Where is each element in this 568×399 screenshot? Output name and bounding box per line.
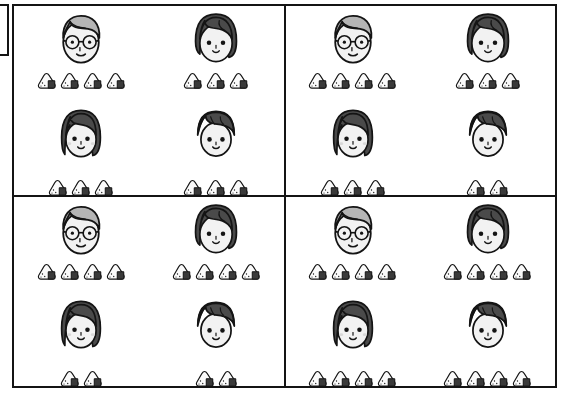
onigiri-icon — [83, 263, 103, 281]
onigiri-row — [14, 259, 149, 281]
onigiri-icon — [60, 370, 80, 388]
member-cell-boy — [149, 101, 284, 196]
onigiri-icon — [106, 263, 126, 281]
face-grandfather-glasses-icon — [326, 11, 380, 67]
face-mother-bob-icon — [461, 11, 515, 67]
onigiri-icon — [354, 370, 374, 388]
face-boy-icon — [461, 106, 515, 162]
onigiri-row — [420, 175, 555, 197]
face-girl-icon — [54, 297, 108, 353]
member-cell-mother — [420, 6, 555, 101]
onigiri-icon — [343, 179, 363, 197]
member-cell-grandfather — [14, 6, 149, 101]
member-cell-girl — [286, 101, 421, 196]
onigiri-icon — [206, 179, 226, 197]
face-mother-bob-icon — [189, 11, 243, 67]
onigiri-icon — [106, 72, 126, 90]
onigiri-icon — [308, 370, 328, 388]
member-cell-mother — [149, 197, 284, 292]
onigiri-row — [420, 259, 555, 281]
face-mother-bob-icon — [461, 202, 515, 258]
onigiri-icon — [308, 72, 328, 90]
onigiri-icon — [195, 263, 215, 281]
onigiri-row — [14, 68, 149, 90]
onigiri-icon — [377, 72, 397, 90]
face-boy-icon — [461, 297, 515, 353]
onigiri-icon — [206, 72, 226, 90]
onigiri-row — [149, 259, 284, 281]
onigiri-icon — [48, 179, 68, 197]
onigiri-icon — [229, 179, 249, 197]
onigiri-icon — [331, 370, 351, 388]
face-girl-icon — [54, 106, 108, 162]
onigiri-row — [14, 366, 149, 388]
onigiri-icon — [60, 263, 80, 281]
onigiri-icon — [60, 72, 80, 90]
face-girl-icon — [326, 297, 380, 353]
onigiri-icon — [466, 179, 486, 197]
onigiri-icon — [455, 72, 475, 90]
member-cell-girl — [14, 101, 149, 196]
onigiri-icon — [83, 370, 103, 388]
onigiri-icon — [478, 72, 498, 90]
onigiri-icon — [377, 263, 397, 281]
onigiri-row — [149, 366, 284, 388]
onigiri-icon — [377, 370, 397, 388]
onigiri-row — [286, 366, 421, 388]
member-cell-grandfather — [286, 6, 421, 101]
face-mother-bob-icon — [189, 202, 243, 258]
onigiri-icon — [308, 263, 328, 281]
onigiri-icon — [443, 263, 463, 281]
onigiri-icon — [331, 72, 351, 90]
panel-3 — [12, 196, 285, 388]
onigiri-icon — [94, 179, 114, 197]
onigiri-icon — [229, 72, 249, 90]
face-boy-icon — [189, 106, 243, 162]
member-cell-girl — [14, 292, 149, 387]
onigiri-icon — [195, 370, 215, 388]
onigiri-icon — [443, 370, 463, 388]
face-grandfather-glasses-icon — [54, 202, 108, 258]
panel-grid — [12, 4, 557, 388]
member-cell-girl — [286, 292, 421, 387]
face-grandfather-glasses-icon — [326, 202, 380, 258]
onigiri-row — [286, 175, 421, 197]
onigiri-icon — [512, 370, 532, 388]
onigiri-icon — [183, 72, 203, 90]
member-cell-boy — [420, 292, 555, 387]
face-grandfather-glasses-icon — [54, 11, 108, 67]
member-cell-mother — [149, 6, 284, 101]
onigiri-icon — [37, 72, 57, 90]
onigiri-icon — [466, 370, 486, 388]
onigiri-icon — [489, 179, 509, 197]
onigiri-icon — [37, 263, 57, 281]
onigiri-icon — [218, 370, 238, 388]
member-cell-grandfather — [286, 197, 421, 292]
onigiri-icon — [331, 263, 351, 281]
face-girl-icon — [326, 106, 380, 162]
onigiri-row — [149, 175, 284, 197]
onigiri-icon — [172, 263, 192, 281]
panel-1 — [12, 4, 285, 196]
onigiri-row — [149, 68, 284, 90]
onigiri-icon — [366, 179, 386, 197]
onigiri-icon — [466, 263, 486, 281]
onigiri-icon — [354, 72, 374, 90]
onigiri-row — [286, 68, 421, 90]
onigiri-icon — [501, 72, 521, 90]
member-cell-mother — [420, 197, 555, 292]
member-cell-grandfather — [14, 197, 149, 292]
onigiri-row — [420, 68, 555, 90]
onigiri-icon — [489, 263, 509, 281]
face-boy-icon — [189, 297, 243, 353]
onigiri-icon — [71, 179, 91, 197]
panel-2 — [285, 4, 558, 196]
onigiri-icon — [489, 370, 509, 388]
onigiri-icon — [83, 72, 103, 90]
cropped-panel-edge — [0, 4, 9, 56]
onigiri-icon — [218, 263, 238, 281]
onigiri-icon — [354, 263, 374, 281]
onigiri-row — [14, 175, 149, 197]
onigiri-icon — [512, 263, 532, 281]
onigiri-row — [420, 366, 555, 388]
